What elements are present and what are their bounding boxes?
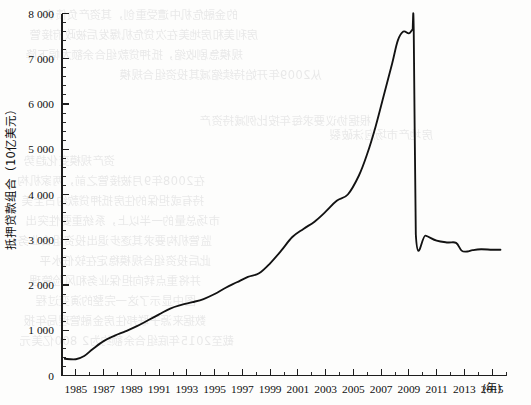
x-tick-label: 2005 xyxy=(342,383,365,395)
x-axis-unit-label: (年) xyxy=(482,381,502,395)
mortgage-portfolio-line-chart: 01 0002 0003 0004 0005 0006 0007 0008 00… xyxy=(0,0,531,405)
x-tick-label: 1993 xyxy=(175,383,198,395)
x-tick-label: 2011 xyxy=(425,383,448,395)
x-tick-label: 1985 xyxy=(64,383,87,395)
y-tick-label: 1 000 xyxy=(28,324,54,336)
x-tick-label: 1987 xyxy=(92,383,115,395)
chart-svg: 01 0002 0003 0004 0005 0006 0007 0008 00… xyxy=(0,0,531,405)
x-tick-label: 1997 xyxy=(231,383,254,395)
x-tick-label: 2003 xyxy=(314,383,337,395)
y-tick-label: 6 000 xyxy=(28,98,54,110)
y-tick-label: 0 xyxy=(48,370,54,382)
x-tick-label: 1995 xyxy=(203,383,226,395)
y-tick-label: 2 000 xyxy=(28,279,54,291)
y-tick-label: 8 000 xyxy=(28,8,54,20)
y-tick-label: 3 000 xyxy=(28,234,54,246)
x-tick-label: 1999 xyxy=(259,383,282,395)
y-tick-label: 7 000 xyxy=(28,53,54,65)
y-tick-label: 4 000 xyxy=(28,189,54,201)
x-tick-label: 1989 xyxy=(120,383,143,395)
axis-label-group: 抵押贷款组合（10亿美元） (年) xyxy=(4,103,502,395)
data-series-group xyxy=(65,13,501,359)
x-axis-ticks: 1985198719891991199319951997199920012003… xyxy=(62,369,506,395)
chart-page: 的金融危机中遭受重创，其资产负债表房利美和房地美在次贷危机爆发后被政府接管规模急… xyxy=(0,0,531,405)
x-tick-label: 2009 xyxy=(397,383,420,395)
x-tick-label: 2001 xyxy=(286,383,309,395)
x-tick-label: 1991 xyxy=(148,383,171,395)
y-axis-title: 抵押贷款组合（10亿美元） xyxy=(4,103,18,250)
axis-lines xyxy=(62,14,506,376)
x-tick-label: 2007 xyxy=(370,383,393,395)
y-tick-label: 5 000 xyxy=(28,143,54,155)
x-tick-label: 2013 xyxy=(453,383,476,395)
series-line-mortgage-portfolio xyxy=(65,13,501,359)
